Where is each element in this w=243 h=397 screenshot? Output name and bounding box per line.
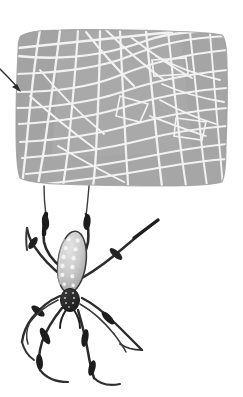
leg-right-upper [82,220,158,278]
illustration-root: Golden orb-weaver spider suspended benea… [0,0,243,397]
pedipalps [60,310,80,328]
legs [22,214,158,385]
spider-and-web-illustration [0,0,243,397]
abdomen [54,230,89,295]
cephalothorax [61,289,80,312]
golden-orb-weaver-spider [22,186,158,385]
leg-right-middle [82,298,142,350]
spider-web-patch [16,30,228,186]
leg-left-lower [35,308,68,382]
anchor-silk-threads [44,186,89,216]
